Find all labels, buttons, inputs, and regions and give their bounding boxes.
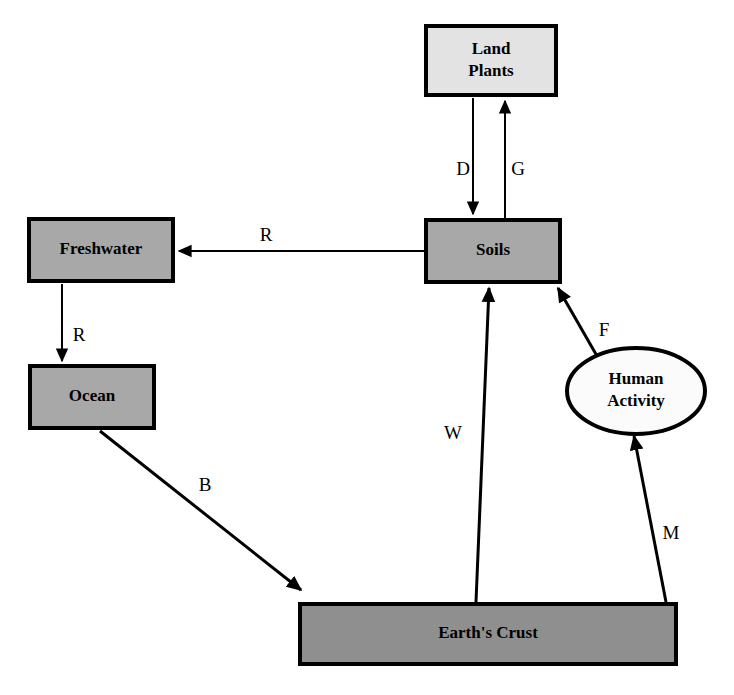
- edge-f-human-activity-to-soils: [558, 288, 597, 356]
- node-label-earths-crust: Earth's Crust: [438, 623, 538, 642]
- edge-label-edge-g: G: [511, 158, 525, 179]
- edge-label-edge-w: W: [444, 422, 462, 443]
- edge-label-edge-f: F: [599, 319, 610, 340]
- edge-labels-layer: DGRRBWFM: [73, 158, 680, 543]
- node-ocean[interactable]: Ocean: [30, 366, 154, 428]
- node-soils[interactable]: Soils: [426, 220, 560, 282]
- edge-label-edge-m: M: [663, 522, 680, 543]
- node-human-activity[interactable]: HumanActivity: [567, 348, 705, 434]
- node-label-ocean: Ocean: [69, 386, 116, 405]
- node-label-soils: Soils: [476, 240, 510, 259]
- node-freshwater[interactable]: Freshwater: [29, 219, 173, 281]
- edge-label-edge-d: D: [456, 158, 470, 179]
- edge-m-earths-crust-to-human-activity: [634, 436, 666, 602]
- edge-label-edge-b: B: [199, 474, 212, 495]
- edge-label-edge-r-soils-freshwater: R: [260, 224, 273, 245]
- phosphorus-cycle-diagram: LandPlantsSoilsFreshwaterOceanEarth's Cr…: [0, 0, 734, 695]
- edge-w-earths-crust-to-soils: [476, 288, 489, 602]
- node-label-freshwater: Freshwater: [60, 239, 143, 258]
- edge-b-ocean-to-earths-crust: [100, 431, 301, 590]
- edges-layer: [62, 98, 666, 602]
- node-earths-crust[interactable]: Earth's Crust: [300, 604, 676, 664]
- node-land-plants[interactable]: LandPlants: [426, 26, 556, 95]
- diagram-canvas: LandPlantsSoilsFreshwaterOceanEarth's Cr…: [0, 0, 734, 695]
- nodes-layer: LandPlantsSoilsFreshwaterOceanEarth's Cr…: [29, 26, 705, 664]
- edge-label-edge-r-freshwater-ocean: R: [73, 324, 86, 345]
